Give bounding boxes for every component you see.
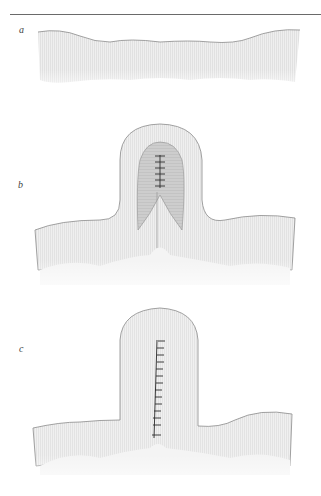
panel-c-illustration — [0, 300, 321, 496]
panel-b-illustration — [0, 120, 321, 300]
top-rule — [10, 14, 321, 15]
panel-a-illustration — [0, 20, 321, 100]
